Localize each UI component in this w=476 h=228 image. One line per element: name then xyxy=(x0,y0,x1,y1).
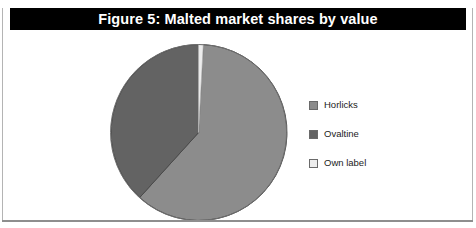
figure-bottom-rule xyxy=(2,220,473,222)
legend-swatch-icon-own-label xyxy=(309,159,318,168)
legend-item-ovaltine: Ovaltine xyxy=(309,128,419,140)
figure-container: Figure 5: Malted market shares by value … xyxy=(0,0,476,228)
chart-legend: Horlicks Ovaltine Own label xyxy=(309,99,419,169)
legend-label-ovaltine: Ovaltine xyxy=(324,129,359,139)
legend-item-own-label: Own label xyxy=(309,157,419,169)
legend-swatch-icon-ovaltine xyxy=(309,130,318,139)
pie-chart xyxy=(104,36,294,220)
legend-swatch-icon-horlicks xyxy=(309,101,318,110)
legend-label-horlicks: Horlicks xyxy=(324,100,358,110)
figure-title-bar: Figure 5: Malted market shares by value xyxy=(10,8,466,30)
legend-item-horlicks: Horlicks xyxy=(309,99,419,111)
legend-label-own-label: Own label xyxy=(324,158,366,168)
figure-title: Figure 5: Malted market shares by value xyxy=(98,12,378,27)
chart-plot-area: Horlicks Ovaltine Own label xyxy=(0,30,476,220)
